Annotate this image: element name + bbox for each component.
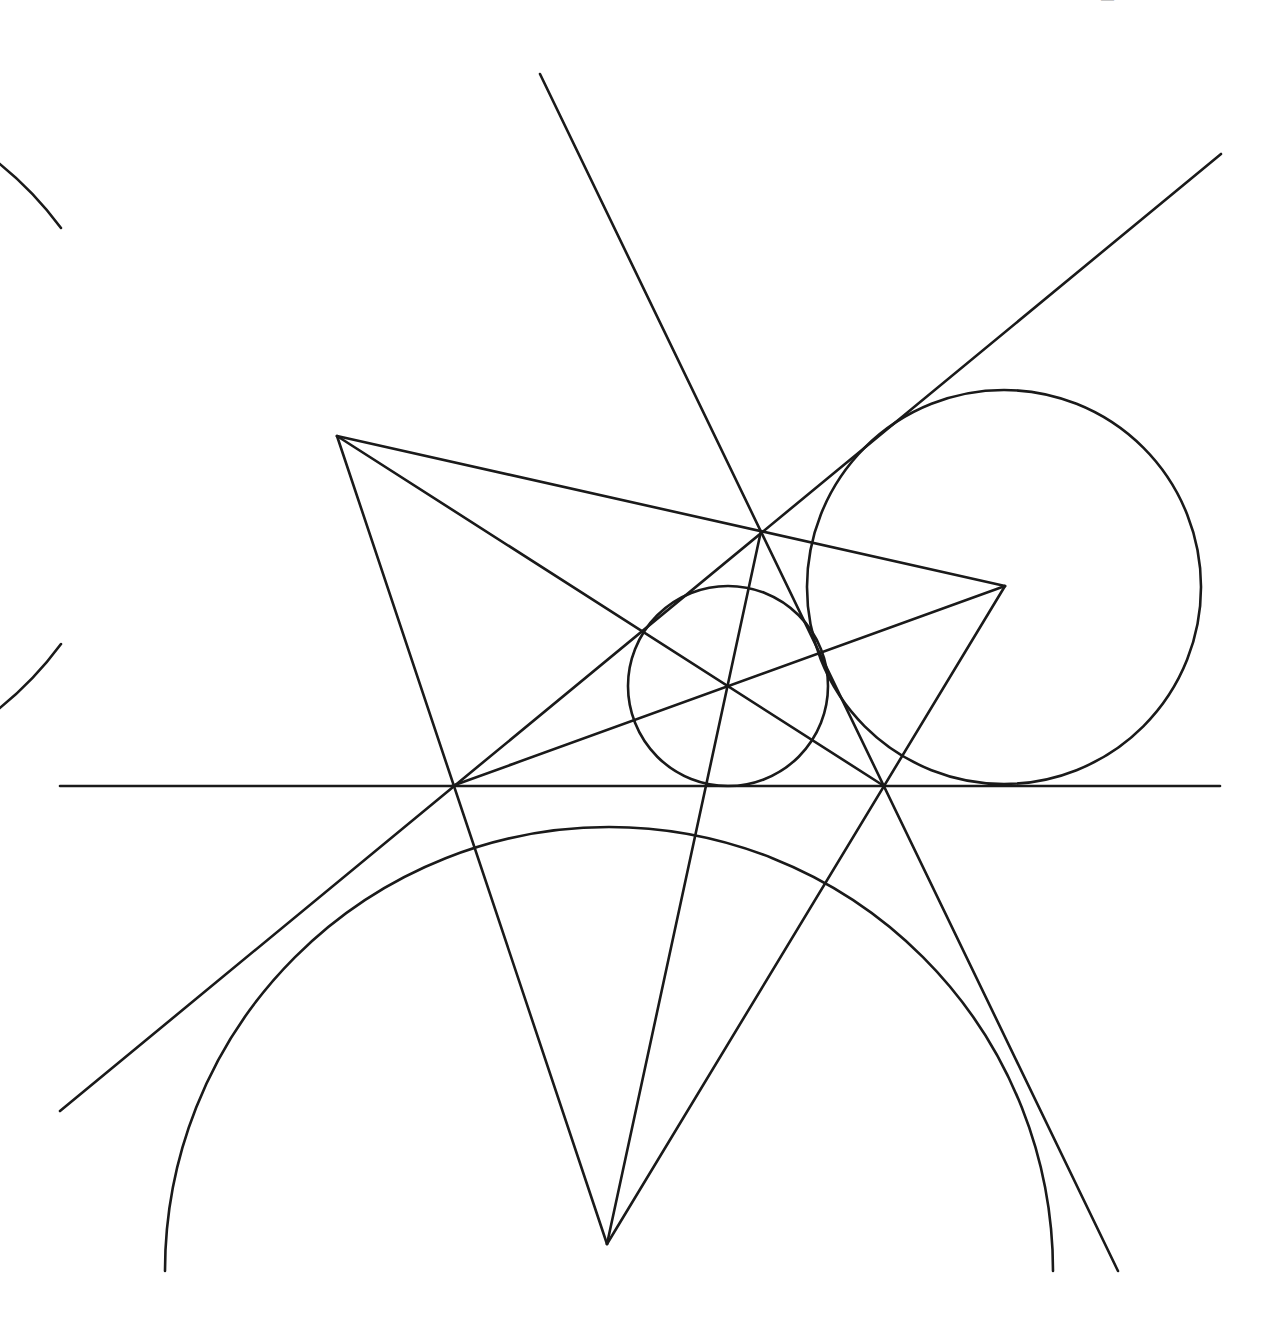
excircle-upper-left	[0, 86, 61, 786]
side-AB	[337, 436, 1005, 586]
side-AC	[337, 436, 607, 1244]
circles-layer	[0, 86, 1201, 1271]
geometry-diagram	[0, 0, 1288, 1341]
diagonal-tangent-line	[60, 154, 1221, 1111]
triangle-and-cevians-layer	[337, 436, 1005, 1244]
cevian-C-R	[607, 531, 761, 1244]
excircle-bottom	[165, 827, 1053, 1271]
cevian-A-Q	[337, 436, 884, 786]
steep-tangent-line	[540, 74, 1118, 1271]
